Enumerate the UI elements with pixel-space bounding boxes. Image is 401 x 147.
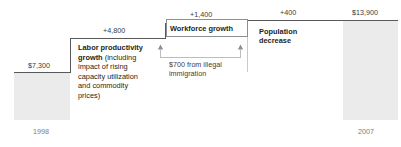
delta-label-2: +1,400 [190, 10, 212, 19]
callout-population-decrease: Population decrease [259, 27, 321, 46]
start-value-label: $7,300 [28, 61, 50, 70]
delta-label-3: +400 [280, 8, 296, 17]
immigration-bracket [161, 50, 241, 58]
waterfall-chart: $7,300 $13,900 +4,800 +1,400 +400 Labor … [0, 0, 401, 147]
end-value-label: $13,900 [352, 8, 378, 17]
axis-label-end-year: 2007 [358, 127, 374, 136]
callout-labor-productivity: Labor productivity growth (including imp… [78, 43, 152, 101]
bar-end [343, 21, 398, 120]
note-illegal-immigration: $700 from illegal immigration [169, 60, 237, 78]
delta-label-1: +4,800 [103, 26, 125, 35]
bracket-arrow-right-icon [238, 45, 243, 50]
bar-start [14, 73, 70, 120]
axis-label-start-year: 1998 [33, 127, 49, 136]
callout-workforce-growth: Workforce growth [170, 24, 233, 33]
bracket-arrow-left-icon [158, 45, 163, 50]
